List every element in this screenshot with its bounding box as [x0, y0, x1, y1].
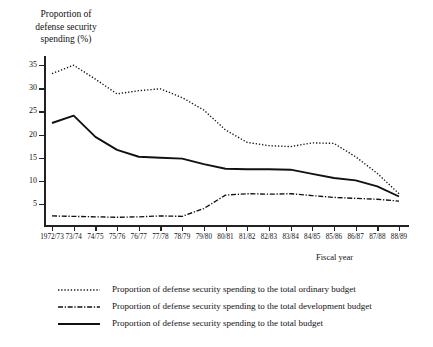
y-tick-label: 35 — [29, 61, 37, 69]
series-line-2 — [52, 116, 399, 197]
legend-label: Proportion of defense security spending … — [112, 284, 356, 295]
x-tick-label: 77/78 — [152, 233, 168, 241]
x-tick-label: 86/87 — [347, 233, 363, 241]
y-tick-label: 20 — [29, 131, 37, 139]
x-tick-label: 1972/73 — [40, 233, 64, 241]
x-tick-mark — [226, 227, 227, 232]
x-tick-label: 73/74 — [66, 233, 82, 241]
y-tick-label: 10 — [29, 177, 37, 185]
y-axis-title-line-1: Proportion of — [6, 8, 126, 21]
x-tick-mark — [399, 227, 400, 232]
x-tick-label: 87/88 — [369, 233, 385, 241]
x-tick-mark — [247, 227, 248, 232]
x-tick-mark — [312, 227, 313, 232]
legend-swatch-dash-dot-icon — [58, 302, 100, 312]
x-tick-label: 88/89 — [391, 233, 407, 241]
y-tick-label: 15 — [29, 154, 37, 162]
y-axis-title-line-2: defense security — [6, 21, 126, 34]
x-tick-label: 85/86 — [326, 233, 342, 241]
series-line-0 — [52, 65, 399, 193]
x-tick-label: 75/76 — [109, 233, 125, 241]
legend-item-2[interactable]: Proportion of defense security spending … — [58, 315, 408, 332]
x-tick-mark — [160, 227, 161, 232]
legend-swatch-dotted-icon — [58, 285, 100, 295]
x-tick-mark — [139, 227, 140, 232]
plot-area: 5101520253035 1972/7373/7474/7575/7676/7… — [44, 56, 409, 227]
y-tick-label: 30 — [29, 84, 37, 92]
x-tick-mark — [182, 227, 183, 232]
x-tick-label: 79/80 — [196, 233, 212, 241]
y-axis-title: Proportion of defense security spending … — [6, 8, 126, 46]
x-tick-label: 80/81 — [217, 233, 233, 241]
x-tick-mark — [117, 227, 118, 232]
series-line-1 — [52, 194, 399, 218]
legend-item-1[interactable]: Proportion of defense security spending … — [58, 298, 408, 315]
x-tick-mark — [269, 227, 270, 232]
y-tick-label: 25 — [29, 107, 37, 115]
x-tick-label: 76/77 — [131, 233, 147, 241]
x-tick-label: 84/85 — [304, 233, 320, 241]
series-plot — [44, 56, 409, 227]
chart-legend: Proportion of defense security spending … — [58, 281, 408, 332]
x-tick-label: 82/83 — [261, 233, 277, 241]
legend-label: Proportion of defense security spending … — [112, 318, 323, 329]
y-axis-title-line-3: spending (%) — [6, 33, 126, 46]
x-tick-mark — [52, 227, 53, 232]
chart-container: Proportion of defense security spending … — [0, 0, 433, 347]
x-tick-mark — [356, 227, 357, 232]
x-tick-mark — [334, 227, 335, 232]
x-tick-mark — [95, 227, 96, 232]
x-tick-mark — [291, 227, 292, 232]
x-tick-label: 78/79 — [174, 233, 190, 241]
x-axis-title: Fiscal year — [316, 252, 353, 262]
x-tick-mark — [204, 227, 205, 232]
legend-item-0[interactable]: Proportion of defense security spending … — [58, 281, 408, 298]
x-tick-label: 83/84 — [282, 233, 298, 241]
x-tick-mark — [377, 227, 378, 232]
y-tick-label: 5 — [33, 200, 37, 208]
legend-label: Proportion of defense security spending … — [112, 301, 372, 312]
x-tick-mark — [74, 227, 75, 232]
x-tick-label: 81/82 — [239, 233, 255, 241]
legend-swatch-solid-icon — [58, 319, 100, 329]
x-tick-label: 74/75 — [87, 233, 103, 241]
